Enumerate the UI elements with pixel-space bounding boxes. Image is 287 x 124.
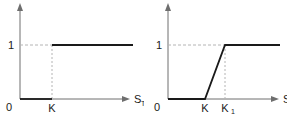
x-tick-label-k: K bbox=[201, 102, 209, 114]
chart-panel-digital-payoff: 1 0 K S T bbox=[0, 0, 144, 124]
y-tick-label-1: 1 bbox=[8, 39, 14, 51]
x-tick-label-k1-subscript: 1 bbox=[231, 108, 235, 115]
x-axis-label: S bbox=[283, 93, 287, 105]
payoff-curve-ramp bbox=[168, 45, 280, 99]
x-tick-label-k1: K bbox=[221, 102, 229, 114]
x-tick-label-k: K bbox=[48, 102, 56, 114]
payoff-curve-step bbox=[20, 45, 133, 99]
ramp-payoff-svg: 1 0 K K 1 S bbox=[143, 0, 287, 124]
origin-label: 0 bbox=[6, 101, 12, 113]
y-axis bbox=[165, 3, 171, 99]
y-axis bbox=[17, 3, 23, 99]
chart-panel-ramp-payoff: 1 0 K K 1 S bbox=[143, 0, 287, 124]
y-tick-label-1: 1 bbox=[156, 39, 162, 51]
digital-payoff-svg: 1 0 K S T bbox=[0, 0, 144, 124]
origin-label: 0 bbox=[154, 101, 160, 113]
figure-two-payoff-diagrams: 1 0 K S T bbox=[0, 0, 287, 124]
